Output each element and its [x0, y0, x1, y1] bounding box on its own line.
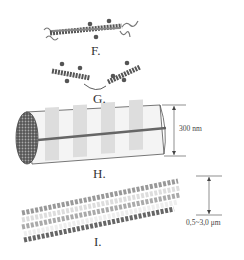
panel-label-h: H. — [93, 166, 106, 182]
panel-label-f: F. — [91, 43, 100, 59]
dimension-label-fiber: 0,5~3,0 μm — [186, 218, 221, 227]
panel-label-g: G. — [93, 91, 106, 107]
dimension-label-300nm: 300 nm — [179, 124, 202, 133]
panel-label-i: I. — [94, 234, 102, 250]
staggered-molecules — [52, 61, 140, 90]
fibril-cylinder — [16, 100, 166, 164]
triple-helix-molecule — [44, 19, 138, 40]
dimension-marker-fiber — [196, 176, 222, 215]
fiber-bundle — [22, 181, 180, 240]
